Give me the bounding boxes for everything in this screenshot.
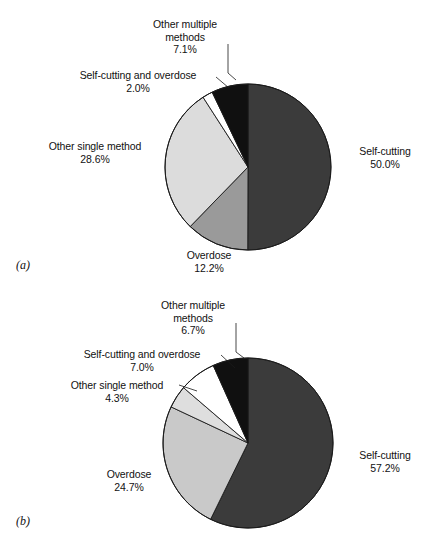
slice-label-text: methods: [120, 31, 250, 44]
figure-pie-charts: Other multiplemethods7.1%Self-cutting an…: [0, 0, 427, 557]
panel-tag-a: (a): [16, 258, 30, 273]
slice-label-percent: 28.6%: [30, 153, 160, 166]
slice-label-percent: 2.0%: [58, 82, 218, 95]
pie-slice: [248, 84, 331, 250]
slice-label-text: methods: [128, 312, 258, 325]
slice-label-percent: 6.7%: [128, 324, 258, 337]
panel-b: Other multiplemethods6.7%Self-cutting an…: [0, 281, 427, 557]
slice-label-text: Self-cutting and overdose: [58, 69, 218, 82]
slice-label-percent: 7.1%: [120, 43, 250, 56]
slice-label-text: Other multiple: [120, 18, 250, 31]
slice-label-overdose: Overdose12.2%: [176, 249, 242, 274]
slice-label-text: Other single method: [52, 379, 182, 392]
slice-label-other-single-method: Other single method28.6%: [30, 140, 160, 165]
slice-label-percent: 50.0%: [348, 158, 422, 171]
slice-label-other-single-method: Other single method4.3%: [52, 379, 182, 404]
slice-label-self-cutting: Self-cutting57.2%: [348, 449, 422, 474]
slice-label-text: Other single method: [30, 140, 160, 153]
slice-label-text: Overdose: [96, 468, 162, 481]
slice-label-other-multiple-methods: Other multiplemethods6.7%: [128, 299, 258, 337]
slice-label-self-cutting-and-overdose: Self-cutting and overdose2.0%: [58, 69, 218, 94]
slice-label-percent: 4.3%: [52, 392, 182, 405]
slice-label-self-cutting-and-overdose: Self-cutting and overdose7.0%: [62, 348, 222, 373]
slice-label-percent: 12.2%: [176, 262, 242, 275]
slice-label-self-cutting: Self-cutting50.0%: [348, 145, 422, 170]
panel-tag-b: (b): [16, 514, 30, 529]
slice-label-percent: 57.2%: [348, 462, 422, 475]
slice-label-percent: 7.0%: [62, 361, 222, 374]
slice-label-text: Self-cutting and overdose: [62, 348, 222, 361]
slice-label-text: Other multiple: [128, 299, 258, 312]
slice-label-text: Overdose: [176, 249, 242, 262]
slice-label-overdose: Overdose24.7%: [96, 468, 162, 493]
slice-label-text: Self-cutting: [348, 145, 422, 158]
slice-label-text: Self-cutting: [348, 449, 422, 462]
panel-a: Other multiplemethods7.1%Self-cutting an…: [0, 0, 427, 281]
slice-label-percent: 24.7%: [96, 481, 162, 494]
slice-label-other-multiple-methods: Other multiplemethods7.1%: [120, 18, 250, 56]
